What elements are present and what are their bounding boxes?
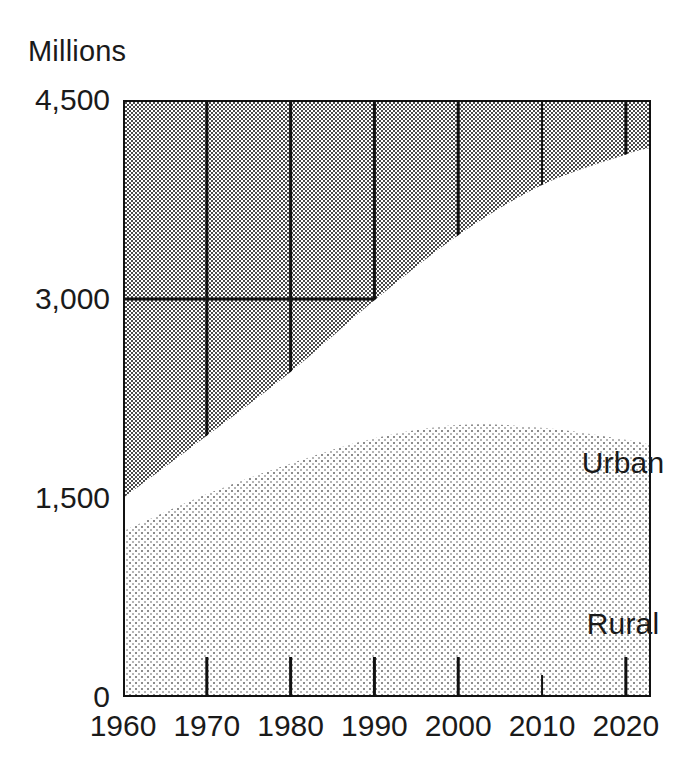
y-tick-label-4500: 4,500 — [0, 83, 110, 117]
x-tick-label-1990: 1990 — [341, 709, 408, 743]
series-label-rural: Rural — [587, 607, 660, 641]
y-axis-tick-labels: 4,5003,0001,5000 — [0, 0, 110, 777]
x-axis-tick-labels: 1960197019801990200020102020 — [0, 709, 689, 759]
x-tick-label-1970: 1970 — [173, 709, 240, 743]
plot-area: Urban Rural — [123, 100, 651, 697]
y-tick-label-1500: 1,500 — [0, 481, 110, 515]
x-tick-label-2000: 2000 — [425, 709, 492, 743]
x-tick-label-1960: 1960 — [90, 709, 157, 743]
chart-canvas — [123, 100, 651, 697]
y-tick-label-3000: 3,000 — [0, 282, 110, 316]
x-tick-label-2010: 2010 — [509, 709, 576, 743]
series-label-urban: Urban — [582, 446, 665, 480]
x-tick-label-2020: 2020 — [592, 709, 659, 743]
x-tick-label-1980: 1980 — [257, 709, 324, 743]
chart-figure: Millions 4,5003,0001,5000 — [0, 0, 689, 777]
